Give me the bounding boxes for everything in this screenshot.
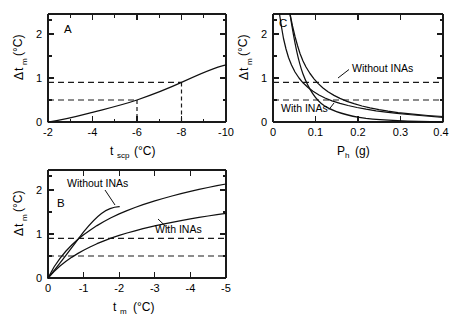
panel-a-y-ticks <box>48 20 226 122</box>
panel-b-xtick-5: -5 <box>221 282 231 294</box>
panel-c-xlabel: P h (g) <box>337 144 370 160</box>
panel-b-xtick-0: 0 <box>45 282 51 294</box>
panel-b-ytick-1: 1 <box>36 228 42 240</box>
panel-b-xtick-4: -4 <box>186 282 196 294</box>
panel-a-xtick-1: -4 <box>88 126 98 138</box>
panel-c-ylabel-delta: Δ <box>237 72 251 80</box>
panel-c-xlabel-unit: (g) <box>355 144 370 158</box>
panel-a-xlabel: t scp (°C) <box>110 144 155 160</box>
panel-c-xtick-3: 0.3 <box>393 126 408 138</box>
panel-a-x-ticks-top <box>70 14 204 20</box>
panel-b-label-without-inas: Without INAs <box>67 177 128 189</box>
panel-a-ytick-0: 0 <box>36 116 42 128</box>
panel-a-xtick-4: -10 <box>218 126 234 138</box>
panel-c-xtick-4: 0.4 <box>433 126 448 138</box>
panel-b-xtick-1: -1 <box>79 282 89 294</box>
panel-b-xlabel-sub: m <box>120 307 127 316</box>
panel-c-letter: C <box>279 17 287 29</box>
panel-c-label-with-inas: With INAs <box>281 102 328 114</box>
panel-c-xlabel-sub: h <box>345 151 349 160</box>
panel-c-leader-without-inas <box>338 70 349 79</box>
panel-c: C Without INAs With INAs 0 1 2 0 0.1 0.2… <box>236 14 449 160</box>
panel-b-leader-without-inas <box>105 190 115 205</box>
panel-b-xlabel-var: t <box>113 300 117 314</box>
panel-b-ylabel-sub: m <box>20 214 29 221</box>
figure-canvas: A 0 1 2 -2 -4 -6 -8 -10 t scp (°C) Δ t m… <box>0 0 463 324</box>
panel-c-ylabel-var: t <box>237 67 251 71</box>
panel-c-xtick-0: 0 <box>270 126 276 138</box>
panel-b-letter: B <box>57 197 65 209</box>
panel-b-ylabel-delta: Δ <box>12 228 26 236</box>
scientific-figure: A 0 1 2 -2 -4 -6 -8 -10 t scp (°C) Δ t m… <box>0 0 463 324</box>
panel-c-ylabel-unit: (°C) <box>236 35 250 56</box>
panel-b-ylabel-var: t <box>12 223 26 227</box>
panel-c-ytick-1: 1 <box>261 72 267 84</box>
panel-a-xtick-2: -6 <box>132 126 142 138</box>
panel-b-ylabel: Δ t m (°C) <box>11 191 29 236</box>
panel-a-ylabel-var: t <box>12 67 26 71</box>
panel-a-ylabel: Δ t m (°C) <box>11 35 29 80</box>
panel-c-ylabel: Δ t m (°C) <box>236 35 254 80</box>
panel-a-letter: A <box>64 23 72 35</box>
panel-a-ytick-1: 1 <box>36 72 42 84</box>
panel-a-xtick-3: -8 <box>177 126 187 138</box>
panel-a: A 0 1 2 -2 -4 -6 -8 -10 t scp (°C) Δ t m… <box>11 14 234 160</box>
panel-c-xtick-2: 0.2 <box>350 126 365 138</box>
panel-b-xtick-3: -3 <box>150 282 160 294</box>
panel-a-ytick-2: 2 <box>36 28 42 40</box>
panel-c-xlabel-var: P <box>337 144 345 158</box>
panel-b: B Without INAs With INAs 0 1 2 0 -1 -2 -… <box>11 170 231 316</box>
panel-c-ylabel-sub: m <box>245 58 254 65</box>
panel-c-label-without-inas: Without INAs <box>352 62 413 74</box>
panel-b-ytick-2: 2 <box>36 184 42 196</box>
panel-a-curve <box>48 65 226 122</box>
panel-a-ylabel-delta: Δ <box>12 72 26 80</box>
panel-b-xlabel: t m (°C) <box>113 300 154 316</box>
panel-c-leader-with-inas <box>329 103 334 110</box>
panel-a-xtick-0: -2 <box>43 126 53 138</box>
panel-a-xlabel-var: t <box>110 144 114 158</box>
panel-b-label-with-inas: With INAs <box>155 223 202 235</box>
panel-a-xlabel-sub: scp <box>117 151 130 160</box>
panel-a-ylabel-sub: m <box>20 58 29 65</box>
panel-a-ylabel-unit: (°C) <box>11 35 25 56</box>
panel-b-ytick-0: 0 <box>36 272 42 284</box>
panel-a-xlabel-unit: (°C) <box>134 144 155 158</box>
panel-c-xtick-1: 0.1 <box>308 126 323 138</box>
panel-b-xlabel-unit: (°C) <box>133 300 154 314</box>
panel-c-ytick-2: 2 <box>261 28 267 40</box>
panel-b-xtick-2: -2 <box>114 282 124 294</box>
panel-b-ylabel-unit: (°C) <box>11 191 25 212</box>
panel-c-ytick-0: 0 <box>261 116 267 128</box>
